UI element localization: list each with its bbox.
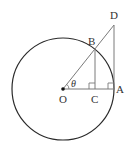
point-label-O: O <box>59 93 67 105</box>
angle-arc-theta <box>67 84 69 89</box>
center-point-O <box>61 87 65 91</box>
angle-label-theta: θ <box>71 78 76 89</box>
point-label-C: C <box>91 93 98 105</box>
point-label-A: A <box>116 83 124 95</box>
right-angle-marker-A <box>108 83 114 89</box>
point-label-B: B <box>88 35 95 47</box>
right-angle-marker-C <box>89 83 95 89</box>
point-label-D: D <box>110 9 118 21</box>
trig-circle-diagram: θ O C A B D <box>0 0 129 146</box>
